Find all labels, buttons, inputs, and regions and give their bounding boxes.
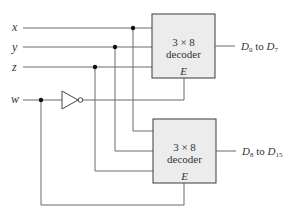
junction-dot-z — [93, 65, 97, 69]
top-decoder-size: 3 × 8 — [172, 36, 195, 48]
bottom-decoder-output-label: D8 to D15 — [241, 145, 283, 159]
input-label-w: w — [11, 92, 19, 106]
decoder-circuit-diagram: x y z w 3 × 8 decoder E D0 to D7 3 × 8 d… — [0, 0, 293, 216]
junction-dot-y — [113, 45, 117, 49]
wire-x-branch — [133, 28, 153, 131]
top-decoder-output-label: D0 to D7 — [240, 40, 278, 54]
input-label-y: y — [11, 40, 18, 54]
input-label-x: x — [11, 20, 18, 34]
wire-y-branch — [115, 47, 153, 151]
junction-dot-x — [131, 26, 135, 30]
inverter-triangle-icon — [62, 91, 78, 109]
inverter-bubble-icon — [78, 98, 83, 103]
top-decoder-label: decoder — [166, 48, 201, 60]
top-decoder: 3 × 8 decoder E — [152, 14, 215, 78]
bottom-decoder-label: decoder — [167, 153, 202, 165]
bottom-decoder-size: 3 × 8 — [173, 141, 196, 153]
junction-dot-w — [39, 98, 43, 102]
bottom-decoder: 3 × 8 decoder E — [153, 119, 216, 183]
circuit-svg: x y z w 3 × 8 decoder E D0 to D7 3 × 8 d… — [0, 0, 293, 216]
top-decoder-enable-label: E — [179, 65, 187, 77]
input-label-z: z — [11, 60, 17, 74]
wire-z-branch — [95, 67, 153, 171]
bottom-decoder-enable-label: E — [180, 170, 188, 182]
